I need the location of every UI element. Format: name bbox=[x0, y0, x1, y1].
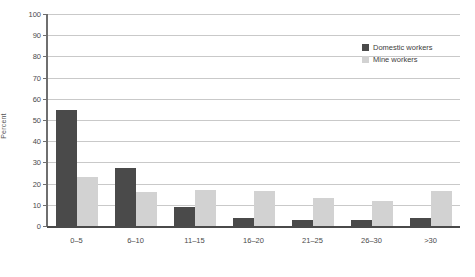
bar bbox=[313, 198, 334, 226]
legend-item: Mine workers bbox=[362, 54, 433, 65]
bar bbox=[351, 220, 372, 226]
legend-item: Domestic workers bbox=[362, 42, 433, 53]
y-axis-tick-label: 50 bbox=[33, 116, 41, 125]
x-axis-category-label: 0–5 bbox=[70, 236, 83, 245]
x-axis-category-label: 21–25 bbox=[302, 236, 323, 245]
bar bbox=[431, 191, 452, 226]
y-axis-tick-label: 30 bbox=[33, 158, 41, 167]
y-axis-tick-label: 40 bbox=[33, 137, 41, 146]
x-axis-category-label: 6–10 bbox=[127, 236, 144, 245]
legend-label: Mine workers bbox=[373, 55, 418, 64]
y-axis-tick-label: 70 bbox=[33, 73, 41, 82]
bar bbox=[372, 201, 393, 226]
x-axis-category-label: 26–30 bbox=[361, 236, 382, 245]
x-axis-line bbox=[47, 226, 460, 228]
y-axis-tick-label: 10 bbox=[33, 200, 41, 209]
y-axis-tick-label: 100 bbox=[28, 10, 41, 19]
bar bbox=[254, 191, 275, 226]
y-axis-tick-label: 80 bbox=[33, 52, 41, 61]
bar bbox=[115, 168, 136, 226]
y-axis-tick-label: 90 bbox=[33, 31, 41, 40]
x-axis-category-label: >30 bbox=[424, 236, 437, 245]
bar bbox=[77, 177, 98, 226]
bar bbox=[174, 207, 195, 226]
y-axis-tick-label: 20 bbox=[33, 179, 41, 188]
x-axis-category-label: 11–15 bbox=[184, 236, 204, 245]
bar bbox=[136, 192, 157, 226]
bar bbox=[56, 110, 77, 226]
y-axis-title: Percent bbox=[0, 96, 7, 156]
y-axis-tick-label: 60 bbox=[33, 94, 41, 103]
legend-swatch bbox=[362, 56, 369, 63]
y-axis-tick-mark bbox=[43, 226, 47, 227]
bar bbox=[292, 220, 313, 226]
bar bbox=[410, 218, 431, 226]
bar bbox=[233, 218, 254, 226]
bar bbox=[195, 190, 216, 226]
y-axis-tick-label: 0 bbox=[37, 222, 41, 231]
legend-label: Domestic workers bbox=[373, 43, 433, 52]
x-axis-category-label: 16–20 bbox=[243, 236, 264, 245]
legend: Domestic workersMine workers bbox=[362, 42, 433, 66]
bar-chart: Percent 0102030405060708090100 0–56–1011… bbox=[0, 0, 475, 277]
legend-swatch bbox=[362, 44, 369, 51]
